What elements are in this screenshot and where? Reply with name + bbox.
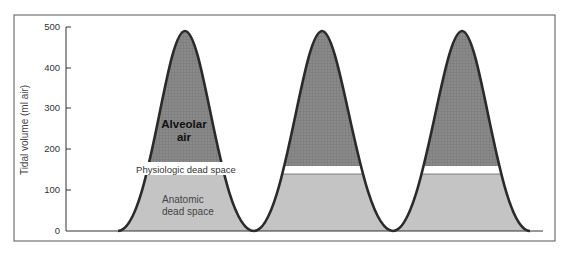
y-tick-label-0: 0 <box>55 225 60 236</box>
y-axis-label: Tidal volume (ml air) <box>19 85 30 175</box>
alveolar-air-label-line2: air <box>177 131 192 143</box>
anatomic-dead-space-label-line1: Anatomic <box>162 194 204 205</box>
physiologic-dead-space-label: Physiologic dead space <box>136 164 236 175</box>
y-tick-label-100: 100 <box>44 184 60 195</box>
tidal-volume-chart: 500 400 300 200 100 0 Tidal volume (ml a… <box>0 0 564 254</box>
alveolar-air-label-line1: Alveolar <box>161 118 207 130</box>
y-tick-label-200: 200 <box>44 143 60 154</box>
y-tick-label-500: 500 <box>44 21 60 32</box>
y-tick-label-300: 300 <box>44 102 60 113</box>
anatomic-dead-space-label-line2: dead space <box>162 206 214 217</box>
y-tick-label-400: 400 <box>44 62 60 73</box>
